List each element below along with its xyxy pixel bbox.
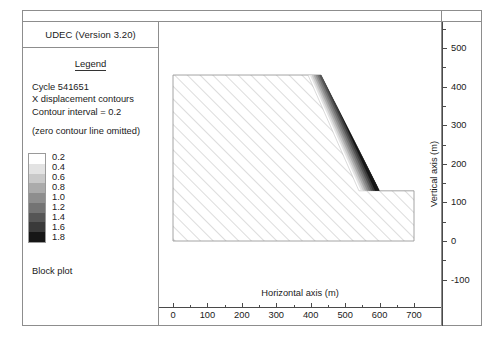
color-scale-label: 1.0 xyxy=(52,192,112,202)
color-scale-label: 1.2 xyxy=(52,202,112,212)
color-scale-band xyxy=(29,154,45,164)
plot-area xyxy=(159,22,441,326)
app-title: UDEC (Version 3.20) xyxy=(45,29,136,40)
app-title-box: UDEC (Version 3.20) xyxy=(23,22,158,48)
x-tick-label: 200 xyxy=(234,310,250,320)
color-scale-band xyxy=(29,222,45,232)
y-tick-minor xyxy=(443,222,446,223)
x-tick-minor xyxy=(328,305,329,308)
y-tick-minor xyxy=(443,106,446,107)
y-axis-title: Vertical axis (m) xyxy=(429,141,439,207)
x-tick-label: 0 xyxy=(170,310,175,320)
y-tick-minor xyxy=(443,67,446,68)
x-axis-title: Horizontal axis (m) xyxy=(159,288,441,298)
color-scale-labels: 0.20.40.60.81.01.21.41.61.8 xyxy=(52,152,112,242)
x-tick-label: 600 xyxy=(372,310,388,320)
legend-cycle: Cycle 541651 xyxy=(32,81,158,93)
y-tick-minor xyxy=(443,145,446,146)
block-outline xyxy=(173,75,414,241)
color-scale-label: 1.6 xyxy=(52,222,112,232)
x-tick-major xyxy=(414,303,415,307)
top-strip xyxy=(22,10,482,22)
x-tick-minor xyxy=(190,305,191,308)
color-scale-band xyxy=(29,174,45,184)
y-tick-major xyxy=(443,87,447,88)
color-scale-band xyxy=(29,183,45,193)
legend-heading-text: Legend xyxy=(75,58,107,71)
y-tick-major xyxy=(443,202,447,203)
y-tick-label: 500 xyxy=(451,43,467,53)
x-tick-major xyxy=(242,303,243,307)
x-tick-minor xyxy=(294,305,295,308)
x-tick-major xyxy=(345,303,346,307)
legend-info-block: Cycle 541651 X displacement contours Con… xyxy=(32,81,158,118)
color-scale-swatches xyxy=(28,153,46,243)
color-scale-band xyxy=(29,213,45,223)
legend-heading: Legend xyxy=(23,58,158,69)
x-tick-label: 300 xyxy=(269,310,285,320)
x-tick-label: 700 xyxy=(406,310,422,320)
x-tick-label: 100 xyxy=(200,310,216,320)
x-tick-minor xyxy=(225,305,226,308)
color-scale-label: 0.2 xyxy=(52,152,112,162)
x-tick-major xyxy=(276,303,277,307)
y-tick-label: 100 xyxy=(451,197,467,207)
x-tick-major xyxy=(311,303,312,307)
color-scale-label: 0.4 xyxy=(52,162,112,172)
x-tick-major xyxy=(207,303,208,307)
x-tick-label: 500 xyxy=(337,310,353,320)
y-tick-major xyxy=(443,241,447,242)
y-tick-major xyxy=(443,125,447,126)
color-scale-band xyxy=(29,203,45,213)
plot-type-label: Block plot xyxy=(32,266,72,276)
legend-quantity: X displacement contours xyxy=(32,93,158,105)
x-tick-minor xyxy=(259,305,260,308)
color-scale-label: 0.6 xyxy=(52,172,112,182)
legend-note: (zero contour line omitted) xyxy=(32,126,162,136)
y-axis: Vertical axis (m) -1000100200300400500 xyxy=(442,22,482,326)
x-tick-minor xyxy=(362,305,363,308)
color-scale-label: 1.8 xyxy=(52,232,112,242)
color-scale-label: 0.8 xyxy=(52,182,112,192)
color-scale-band xyxy=(29,193,45,203)
y-tick-major xyxy=(443,164,447,165)
y-tick-major xyxy=(443,280,447,281)
y-tick-label: 300 xyxy=(451,120,467,130)
x-axis-line xyxy=(159,307,441,308)
block-plot-graphic xyxy=(159,22,441,326)
x-tick-label: 400 xyxy=(303,310,319,320)
y-tick-minor xyxy=(443,29,446,30)
y-tick-label: 400 xyxy=(451,82,467,92)
y-tick-label: 200 xyxy=(451,159,467,169)
color-scale-band xyxy=(29,232,45,242)
color-scale-band xyxy=(29,164,45,174)
color-scale-label: 1.4 xyxy=(52,212,112,222)
y-tick-minor xyxy=(443,260,446,261)
y-tick-label: -100 xyxy=(451,275,470,285)
y-tick-minor xyxy=(443,183,446,184)
x-tick-major xyxy=(173,303,174,307)
legend-panel: Legend Cycle 541651 X displacement conto… xyxy=(23,48,158,326)
udec-plot-window: UDEC (Version 3.20) Legend Cycle 541651 … xyxy=(0,0,504,346)
y-tick-label: 0 xyxy=(451,236,456,246)
y-tick-major xyxy=(443,48,447,49)
legend-interval: Contour interval = 0.2 xyxy=(32,106,158,118)
x-tick-major xyxy=(380,303,381,307)
x-axis: 0100200300400500600700 xyxy=(159,307,441,308)
x-tick-minor xyxy=(397,305,398,308)
